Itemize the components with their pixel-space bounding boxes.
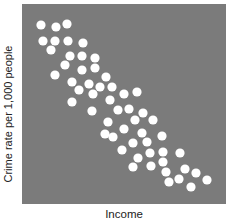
data-point: [132, 87, 141, 96]
data-point: [100, 129, 109, 138]
data-point: [124, 104, 133, 113]
data-point: [67, 97, 76, 106]
data-point: [87, 106, 96, 115]
data-point: [148, 115, 157, 124]
data-point: [175, 148, 184, 157]
data-point: [60, 60, 69, 69]
data-point: [65, 51, 74, 60]
data-point: [161, 167, 170, 176]
data-point: [133, 153, 142, 162]
data-point: [78, 38, 87, 47]
data-point: [95, 82, 104, 91]
data-point: [103, 117, 112, 126]
data-point: [77, 65, 86, 74]
data-point: [74, 85, 83, 94]
data-point: [130, 115, 139, 124]
data-point: [62, 19, 71, 28]
data-point: [128, 138, 137, 147]
data-point: [38, 36, 47, 45]
plot-area: [22, 4, 226, 204]
data-point: [67, 77, 76, 86]
data-point: [157, 131, 166, 140]
data-point: [202, 175, 211, 184]
data-point: [50, 36, 59, 45]
data-point: [63, 36, 72, 45]
x-axis-label: Income: [22, 207, 226, 221]
data-point: [158, 147, 167, 156]
data-point: [105, 95, 114, 104]
data-point: [77, 51, 86, 60]
y-axis-label: Crime rate per 1,000 people: [1, 39, 15, 189]
data-point: [51, 22, 60, 31]
data-point: [84, 79, 93, 88]
data-point: [107, 82, 116, 91]
data-point: [108, 132, 117, 141]
data-point: [142, 137, 151, 146]
data-point: [145, 148, 154, 157]
data-point: [191, 168, 200, 177]
data-point: [128, 162, 137, 171]
data-point: [90, 53, 99, 62]
data-point: [119, 124, 128, 133]
data-point: [164, 177, 173, 186]
data-point: [117, 145, 126, 154]
data-point: [50, 70, 59, 79]
data-point: [119, 89, 128, 98]
data-point: [90, 63, 99, 72]
data-point: [113, 105, 122, 114]
data-point: [138, 108, 147, 117]
data-point: [158, 157, 167, 166]
data-point: [186, 182, 195, 191]
data-point: [180, 164, 189, 173]
data-point: [36, 20, 45, 29]
data-points: [22, 4, 226, 204]
data-point: [88, 89, 97, 98]
data-point: [46, 45, 55, 54]
data-point: [101, 72, 110, 81]
data-point: [137, 128, 146, 137]
data-point: [174, 174, 183, 183]
data-point: [146, 161, 155, 170]
